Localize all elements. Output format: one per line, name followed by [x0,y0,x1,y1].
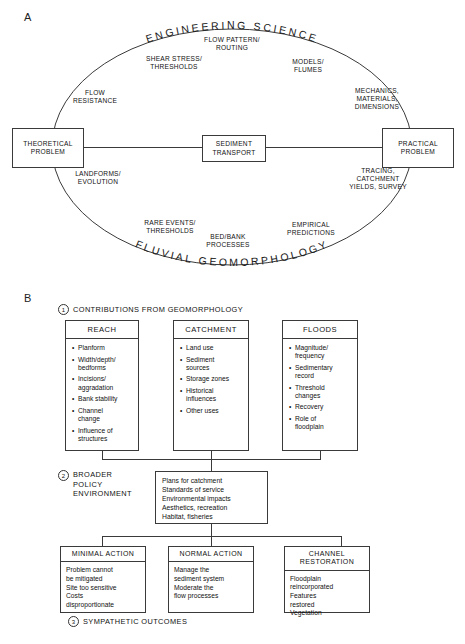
column-header-catchment: CATCHMENT [174,321,248,339]
list-item: Magnitude/ frequency [289,344,353,360]
column-list-reach: Planform Width/depth/ bedforms Incisions… [66,339,138,450]
connector-to-minimal-action [102,536,103,546]
outcome-body-normal-action: Manage the sediment system Moderate the … [169,562,253,604]
list-item: Historical influences [180,387,244,403]
outcome-header-channel-restoration: CHANNEL RESTORATION [285,547,369,571]
policy-environment-lines: Plans for catchment Standards of service… [156,472,267,525]
stage-1-title: CONTRIBUTIONS FROM GEOMORPHOLOGY [73,305,243,314]
connector-floods-down [320,451,321,459]
stage-2-number: 2 [58,470,69,481]
outcome-header-minimal-action: MINIMAL ACTION [61,547,145,562]
list-item: Planform [72,344,134,352]
stage-3-title: SYMPATHETIC OUTCOMES [83,617,187,626]
label-models-flumes: MODELS/ FLUMES [272,58,344,74]
stage-2-heading: 2 BROADER POLICY ENVIRONMENT [58,470,132,499]
box-practical-problem: PRACTICAL PROBLEM [382,128,454,168]
list-item: Recovery [289,403,353,411]
connector-to-normal-action [211,536,212,546]
label-mechanics-materials-dimensions: MECHANICS, MATERIALS, DIMENSIONS [334,87,420,112]
list-item: Channel change [72,407,134,423]
list-item: Sediment sources [180,356,244,372]
panel-a: A ENGINEERING SCIENCE FLUVIAL GEOMORPHOL… [0,0,465,290]
list-item: Threshold changes [289,384,353,400]
label-landforms-evolution: LANDFORMS/ EVOLUTION [56,170,140,186]
label-bed-bank-processes: BED/BANK PROCESSES [188,233,268,249]
connector-center-to-right [262,147,382,148]
connector-catchment-down [211,451,212,459]
list-item: Bank stability [72,395,134,403]
column-list-floods: Magnitude/ frequency Sedimentary record … [283,339,357,439]
list-item: Land use [180,344,244,352]
column-list-catchment: Land use Sediment sources Storage zones … [174,339,248,422]
list-item: Role of floodplain [289,415,353,431]
label-flow-pattern-routing: FLOW PATTERN/ ROUTING [182,36,282,52]
list-item: Storage zones [180,375,244,383]
outcome-box-minimal-action: MINIMAL ACTION Problem cannot be mitigat… [60,546,146,613]
list-item: Influence of structures [72,427,134,443]
label-empirical-predictions: EMPIRICAL PREDICTIONS [268,221,354,237]
list-item: Sedimentary record [289,364,353,380]
outcome-header-normal-action: NORMAL ACTION [169,547,253,562]
box-theoretical-problem: THEORETICAL PROBLEM [12,128,84,168]
label-shear-stress-thresholds: SHEAR STRESS/ THRESHOLDS [126,55,222,71]
connector-reach-down [102,451,103,459]
stage-3-number: 3 [68,616,79,627]
column-header-floods: FLOODS [283,321,357,339]
connector-outcomes-bus [102,536,342,537]
column-box-reach: REACH Planform Width/depth/ bedforms Inc… [65,320,139,451]
list-item: Other uses [180,407,244,415]
stage-1-heading: 1 CONTRIBUTIONS FROM GEOMORPHOLOGY [58,304,243,315]
stage-3-heading: 3 SYMPATHETIC OUTCOMES [68,616,187,627]
panel-b: B 1 CONTRIBUTIONS FROM GEOMORPHOLOGY REA… [0,290,465,644]
label-tracing-catchment-yields-survey: TRACING, CATCHMENT YIELDS, SURVEY [330,167,426,192]
outcome-box-channel-restoration: CHANNEL RESTORATION Floodplain reincorpo… [284,546,370,613]
connector-to-channel-restoration [341,536,342,546]
connector-bus-to-policy [211,459,212,471]
column-box-catchment: CATCHMENT Land use Sediment sources Stor… [173,320,249,451]
label-flow-resistance: FLOW RESISTANCE [58,89,132,105]
outcome-body-minimal-action: Problem cannot be mitigated Site too sen… [61,562,145,613]
list-item: Width/depth/ bedforms [72,356,134,372]
policy-environment-box: Plans for catchment Standards of service… [155,471,268,524]
outcome-box-normal-action: NORMAL ACTION Manage the sediment system… [168,546,254,613]
connector-left-to-center [82,147,206,148]
panel-b-letter: B [24,292,32,304]
list-item: Incisions/ aggradation [72,375,134,391]
column-header-reach: REACH [66,321,138,339]
connector-policy-down [211,524,212,536]
stage-2-title: BROADER POLICY ENVIRONMENT [73,470,132,499]
box-sediment-transport: SEDIMENT TRANSPORT [202,135,266,162]
outcome-body-channel-restoration: Floodplain reincorporated Features resto… [285,571,369,622]
stage-1-number: 1 [58,304,69,315]
column-box-floods: FLOODS Magnitude/ frequency Sedimentary … [282,320,358,451]
